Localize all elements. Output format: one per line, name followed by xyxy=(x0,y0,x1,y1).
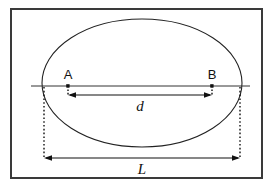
dimension-l-arrowhead-left xyxy=(44,155,52,161)
dimension-d-arrowhead-right xyxy=(204,92,212,98)
point-b-label: B xyxy=(208,67,217,82)
dimension-d xyxy=(68,92,212,98)
dimension-l-label: L xyxy=(137,161,146,177)
dimension-d-label: d xyxy=(136,98,144,114)
ellipse-outline xyxy=(42,19,242,147)
figure-border xyxy=(11,9,262,178)
dimension-l-arrowhead-right xyxy=(232,155,240,161)
figure-container: A B d L xyxy=(0,0,275,192)
point-b-marker xyxy=(210,84,213,87)
point-a-label: A xyxy=(64,67,73,82)
point-a-marker xyxy=(66,84,69,87)
dimension-d-arrowhead-left xyxy=(68,92,76,98)
dimension-l xyxy=(44,155,240,161)
diagram-canvas: A B d L xyxy=(0,0,275,192)
